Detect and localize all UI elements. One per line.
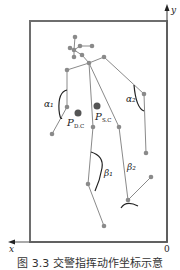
p-sc-subscript: S.C xyxy=(102,117,112,123)
p-sc-label: P xyxy=(94,111,102,122)
x-axis-label: x xyxy=(9,244,14,254)
y-axis-arrow-icon xyxy=(165,4,170,11)
y-axis-label: y xyxy=(170,5,177,15)
bones xyxy=(52,37,151,226)
alpha2-label: α₂ xyxy=(126,94,136,104)
beta1-label: β₁ xyxy=(103,168,113,178)
origin-label: 0 xyxy=(164,244,170,254)
centroid-dc-marker xyxy=(75,110,82,117)
p-dc-subscript: D.C xyxy=(74,123,84,129)
frame xyxy=(30,21,167,242)
p-dc-label: P xyxy=(66,117,74,128)
figure-caption: 图 3.3 交警指挥动作坐标示意 xyxy=(0,254,180,270)
joints xyxy=(50,35,154,229)
alpha1-label: α₁ xyxy=(44,99,54,109)
centroid-sc-marker xyxy=(94,103,101,110)
beta2-label: β₂ xyxy=(126,162,136,172)
